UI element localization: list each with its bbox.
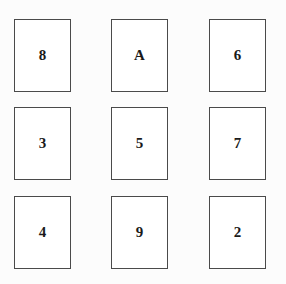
card-label: 5 [136,136,144,151]
card-grid: 8 A 6 3 5 7 4 9 2 [0,0,286,284]
card-label: A [134,48,145,63]
card-8[interactable]: 9 [111,196,168,269]
card-label: 8 [39,48,47,63]
card-label: 9 [136,225,144,240]
card-2[interactable]: A [111,19,168,92]
card-label: 4 [39,225,47,240]
card-6[interactable]: 7 [209,107,266,180]
card-label: 2 [234,225,242,240]
card-5[interactable]: 5 [111,107,168,180]
card-9[interactable]: 2 [209,196,266,269]
card-label: 6 [234,48,242,63]
card-label: 7 [234,136,242,151]
card-4[interactable]: 3 [14,107,71,180]
card-label: 3 [39,136,47,151]
card-7[interactable]: 4 [14,196,71,269]
card-1[interactable]: 8 [14,19,71,92]
card-3[interactable]: 6 [209,19,266,92]
